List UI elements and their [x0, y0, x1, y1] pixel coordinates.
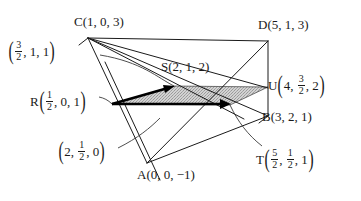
label-m2-z: 0 [93, 145, 100, 158]
fraction-denominator: 2 [15, 51, 22, 62]
label-point-t-z: 1 [301, 153, 308, 166]
fraction-numerator: 3 [15, 40, 22, 50]
paren-close-u: ) [319, 74, 324, 96]
fraction-m2-y: 1 2 [78, 140, 85, 162]
paren-open-m1: ( [9, 40, 14, 62]
paren-close-m2: ) [100, 140, 105, 162]
fraction-denominator: 2 [298, 85, 305, 96]
edge-left-lower [105, 62, 160, 180]
fraction-u-y: 3 2 [298, 74, 305, 96]
fraction-numerator: 1 [46, 90, 53, 100]
label-point-r: R ( 1 2 , 0 , 1 ) [30, 90, 86, 112]
paren-close-m1: ) [50, 40, 55, 62]
edge-c-d [88, 38, 268, 41]
fraction-denominator: 2 [46, 101, 53, 112]
paren-open-u: ( [278, 74, 283, 96]
label-point-r-name: R [30, 95, 39, 108]
paren-close-r: ) [81, 90, 86, 112]
leader-to-m2 [118, 118, 160, 148]
label-point-s: S(2, 1, 2) [161, 60, 209, 73]
label-point-d: D(5, 1, 3) [258, 18, 309, 31]
paren-open-r: ( [39, 90, 44, 112]
fraction-numerator: 3 [298, 74, 305, 84]
fraction-numerator: 1 [78, 140, 85, 150]
label-point-t: T ( 5 2 , 1 2 , 1 ) [256, 148, 314, 170]
label-point-u-z: 2 [312, 79, 319, 92]
paren-open-m2: ( [59, 140, 64, 162]
shaded-parallelogram [112, 86, 268, 105]
paren-open-t: ( [265, 148, 270, 170]
label-point-u: U ( 4 , 3 2 , 2 ) [268, 74, 325, 96]
fraction-r-x: 1 2 [46, 90, 53, 112]
edge-a-b [147, 116, 268, 163]
fraction-denominator: 2 [78, 151, 85, 162]
label-point-c: C(1, 0, 3) [74, 15, 124, 28]
label-point-r-z: 1 [74, 95, 81, 108]
paren-close-t: ) [308, 148, 313, 170]
comma: , [71, 145, 78, 158]
fraction-t-x: 5 2 [271, 148, 278, 170]
label-m1-z: 1 [43, 45, 50, 58]
comma: , [290, 79, 297, 92]
edge-c-left-short [79, 38, 88, 45]
fraction-t-y: 1 2 [287, 148, 294, 170]
fraction-denominator: 2 [271, 159, 278, 170]
label-point-t-name: T [256, 153, 264, 166]
fraction-numerator: 5 [271, 148, 278, 158]
label-point-u-name: U [268, 79, 277, 92]
label-point-a: A(0, 0, −1) [137, 168, 195, 181]
fraction-numerator: 1 [287, 148, 294, 158]
fraction-m1-x: 3 2 [15, 40, 22, 62]
label-midpoint-m2: ( 2 , 1 2 , 0 ) [58, 140, 106, 162]
geometry-figure: C(1, 0, 3) D(5, 1, 3) S(2, 1, 2) B(3, 2,… [0, 0, 361, 201]
fraction-denominator: 2 [287, 159, 294, 170]
comma: , [279, 153, 286, 166]
label-midpoint-m1: ( 3 2 , 1 , 1 ) [8, 40, 56, 62]
label-point-b: B(3, 2, 1) [262, 110, 312, 123]
leader-to-r [99, 97, 112, 104]
